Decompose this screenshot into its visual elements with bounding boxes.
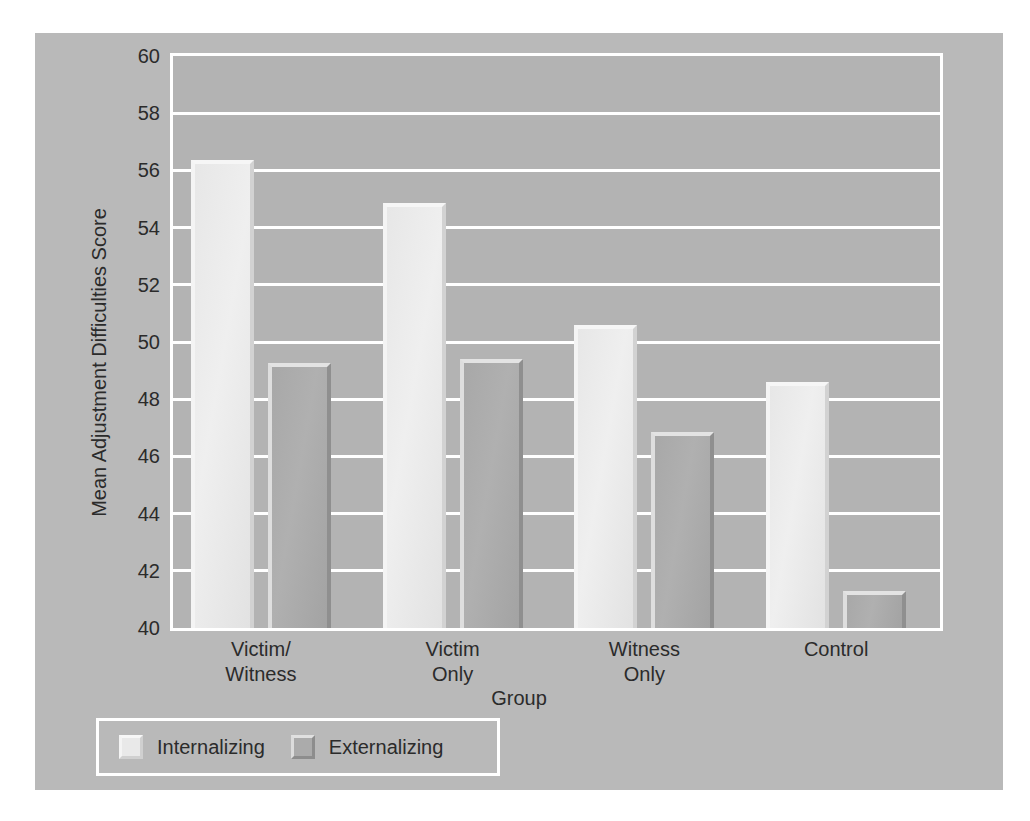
x-axis-tick-label-line: Only [544, 662, 744, 687]
x-axis-tick-label-line: Victim [353, 637, 553, 662]
chart-figure: Mean Adjustment Difficulties Score 40424… [0, 0, 1030, 821]
legend-entry[interactable]: Internalizing [119, 735, 265, 759]
x-axis-tick-label-line: Witness [544, 637, 744, 662]
y-axis-tick-label: 42 [94, 559, 160, 582]
legend-label: Internalizing [157, 736, 265, 759]
x-axis-tick-label-line: Victim/ [161, 637, 361, 662]
legend-entry[interactable]: Externalizing [291, 735, 444, 759]
bar [651, 432, 714, 628]
bar [766, 382, 829, 628]
y-axis-tick-label: 44 [94, 502, 160, 525]
x-axis-tick-label-line: Witness [161, 662, 361, 687]
y-axis-tick-labels: 4042444648505254565860 [94, 53, 160, 631]
x-axis-tick-label-line: Only [353, 662, 553, 687]
legend-label: Externalizing [329, 736, 444, 759]
y-axis-tick-label: 46 [94, 445, 160, 468]
chart-legend: InternalizingExternalizing [96, 718, 500, 776]
y-axis-tick-label: 58 [94, 102, 160, 125]
y-axis-tick-label: 48 [94, 388, 160, 411]
y-axis-tick-label: 52 [94, 273, 160, 296]
y-axis-tick-label: 60 [94, 45, 160, 68]
x-axis-tick-label: VictimOnly [353, 637, 553, 687]
legend-swatch-icon [291, 735, 315, 759]
chart-canvas: Mean Adjustment Difficulties Score 40424… [35, 33, 1003, 790]
y-axis-tick-label: 56 [94, 159, 160, 182]
bar [574, 325, 637, 628]
x-axis-title: Group [35, 687, 1003, 710]
y-axis-tick-label: 54 [94, 216, 160, 239]
bar [843, 591, 906, 628]
x-axis-tick-label-line: Control [736, 637, 936, 662]
plot-area: 4042444648505254565860 [170, 53, 943, 631]
bar [268, 363, 331, 628]
x-axis-tick-label: WitnessOnly [544, 637, 744, 687]
bar [460, 359, 523, 628]
bar [191, 160, 254, 628]
y-axis-tick-label: 40 [94, 617, 160, 640]
x-axis-tick-label: Victim/Witness [161, 637, 361, 687]
x-axis-tick-label: Control [736, 637, 936, 662]
bars-layer [173, 56, 940, 628]
y-axis-tick-label: 50 [94, 331, 160, 354]
bar [383, 203, 446, 628]
legend-swatch-icon [119, 735, 143, 759]
